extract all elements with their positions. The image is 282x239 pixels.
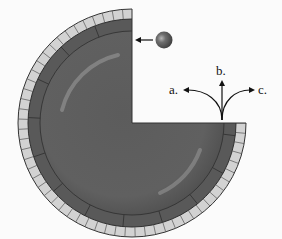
- exit-path-a: [188, 90, 222, 120]
- label-b: b.: [216, 63, 226, 78]
- circular-track-diagram: a. b. c.: [0, 0, 282, 239]
- arrowhead-b: [219, 80, 225, 86]
- ball: [156, 32, 173, 49]
- exit-path-c: [222, 90, 250, 120]
- entry-arrow: [135, 37, 153, 43]
- arrowhead-c: [249, 87, 255, 93]
- arrowhead-a: [183, 87, 189, 93]
- exit-arrows: [188, 85, 250, 120]
- label-a: a.: [169, 82, 178, 97]
- label-c: c.: [258, 82, 267, 97]
